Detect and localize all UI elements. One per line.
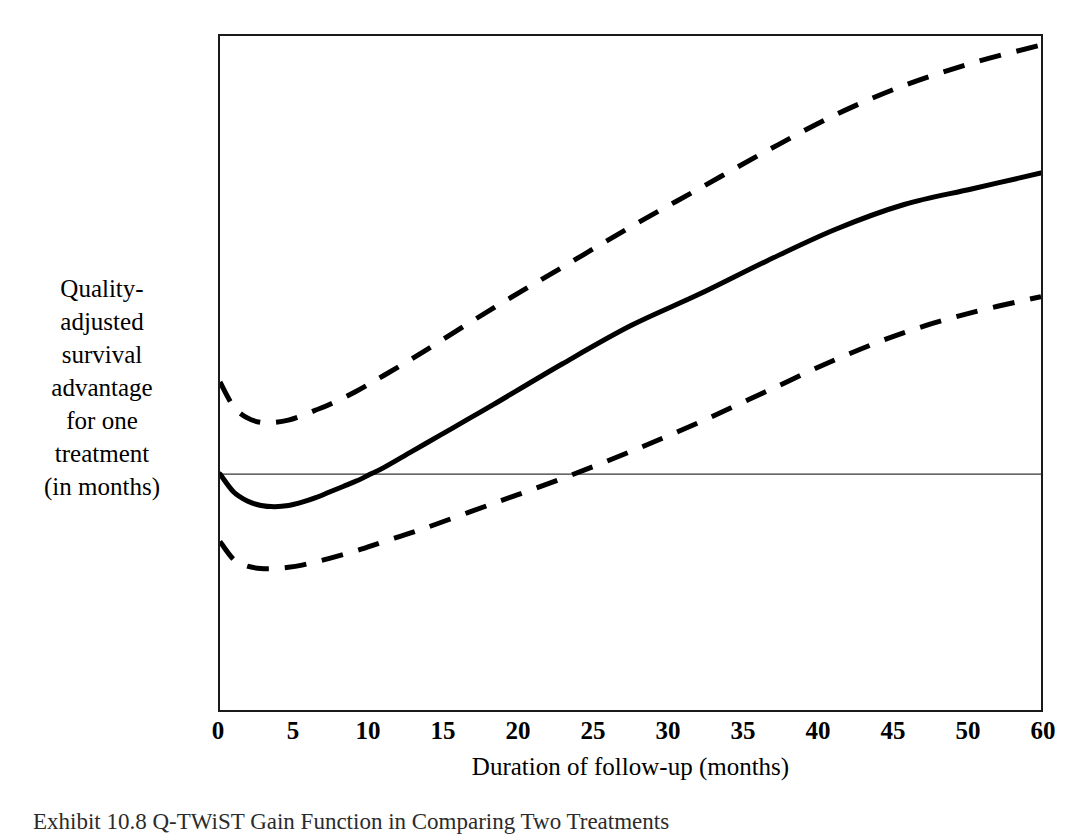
x-axis-tick-label: 50 bbox=[956, 717, 981, 746]
figure-caption: Exhibit 10.8 Q-TWiST Gain Function in Co… bbox=[33, 808, 1053, 837]
x-axis-title: Duration of follow-up (months) bbox=[218, 752, 1043, 782]
y-axis-title: Quality-adjusted survival advantage for … bbox=[22, 272, 182, 503]
x-axis-tick-label: 5 bbox=[287, 717, 300, 746]
x-axis-tick-label: 30 bbox=[656, 717, 681, 746]
series-line bbox=[220, 297, 1041, 569]
x-axis-tick-label: 45 bbox=[881, 717, 906, 746]
x-axis-tick-labels: 0510152025303540455060 bbox=[0, 717, 1082, 753]
x-axis-tick-label: 25 bbox=[581, 717, 606, 746]
x-axis-tick-label: 15 bbox=[431, 717, 456, 746]
x-axis-tick-label: 40 bbox=[806, 717, 831, 746]
series-line bbox=[220, 173, 1041, 507]
data-series-group bbox=[220, 45, 1041, 569]
x-axis-tick-label: 10 bbox=[356, 717, 381, 746]
x-axis-tick-label: 20 bbox=[506, 717, 531, 746]
plot-area bbox=[218, 34, 1043, 712]
plot-canvas bbox=[220, 36, 1041, 710]
x-axis-tick-label: 60 bbox=[1031, 717, 1056, 746]
x-axis-tick-label: 0 bbox=[212, 717, 225, 746]
x-axis-tick-label: 35 bbox=[731, 717, 756, 746]
series-line bbox=[220, 45, 1041, 423]
